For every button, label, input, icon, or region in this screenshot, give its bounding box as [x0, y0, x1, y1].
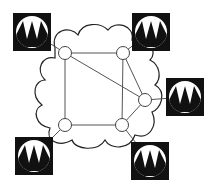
router-node [139, 94, 152, 107]
waveform-station-icon [166, 78, 204, 116]
waveform-station-icon [132, 13, 170, 51]
router-node [59, 47, 72, 60]
diagram-canvas [0, 0, 215, 192]
network-diagram [0, 0, 215, 192]
router-node [117, 47, 130, 60]
waveform-station-icon [13, 13, 51, 51]
router-node [116, 119, 129, 132]
waveform-station-icon [15, 137, 53, 175]
router-node [59, 119, 72, 132]
waveform-station-icon [131, 142, 169, 180]
